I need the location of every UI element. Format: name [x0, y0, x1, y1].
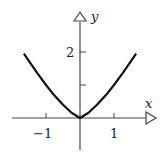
y-tick-label-2: 2 [66, 45, 74, 60]
x-tick-label-1: 1 [110, 126, 118, 141]
x-axis-label: x [145, 96, 153, 111]
x-tick-label-neg1: −1 [33, 126, 52, 141]
x-axis-arrow-icon [146, 112, 156, 124]
y-axis-label: y [90, 9, 99, 24]
function-graph: −1 1 2 x y [0, 0, 164, 152]
y-axis-arrow-icon [74, 12, 86, 21]
